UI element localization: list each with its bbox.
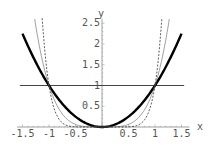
y-tick-label: 1.5 xyxy=(82,59,100,70)
x-tick-label: 1.5 xyxy=(172,128,190,139)
y-tick-label: 2 xyxy=(94,38,100,49)
x-axis-label: x xyxy=(197,121,203,132)
x-tick-label: 0.5 xyxy=(119,128,137,139)
axis-labels: -1.5-1-0.50.511.50.511.522.5xy xyxy=(10,8,203,139)
y-tick-label: 0.5 xyxy=(82,100,100,111)
y-tick-label: 1 xyxy=(94,80,100,91)
x-tick-label: 1 xyxy=(152,128,158,139)
y-axis-label: y xyxy=(98,8,104,19)
x-tick-label: -1.5 xyxy=(10,128,34,139)
x-tick-label: -1 xyxy=(43,128,55,139)
function-plot: -1.5-1-0.50.511.50.511.522.5xy xyxy=(0,0,215,147)
x-tick-label: -0.5 xyxy=(63,128,87,139)
